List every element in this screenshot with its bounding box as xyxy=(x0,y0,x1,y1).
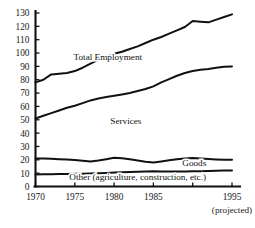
y-tick-label: 120 xyxy=(15,22,29,32)
y-tick-label: 50 xyxy=(20,115,30,125)
y-tick-label: 10 xyxy=(20,169,30,179)
y-tick-label: 30 xyxy=(20,142,30,152)
y-tick-label: 100 xyxy=(15,48,29,58)
y-tick-label: 40 xyxy=(20,129,30,139)
series-label-services: Services xyxy=(110,116,142,126)
y-tick-label: 110 xyxy=(16,35,30,45)
chart-annotations: (projected) xyxy=(212,205,252,215)
y-tick-label: 90 xyxy=(20,62,30,72)
y-tick-label: 20 xyxy=(20,155,30,165)
y-tick-label: 130 xyxy=(15,8,29,18)
y-tick-label: 60 xyxy=(20,102,30,112)
projected-note: (projected) xyxy=(212,205,252,215)
x-tick-label: 1975 xyxy=(65,192,84,202)
chart-svg: 0102030405060708090100110120130 19701975… xyxy=(0,0,255,228)
series-label-goods: Goods xyxy=(182,158,206,168)
x-tick-label: 1985 xyxy=(144,192,163,202)
y-tick-label: 70 xyxy=(20,88,30,98)
x-tick-label: 1995 xyxy=(223,192,242,202)
y-tick-label: 0 xyxy=(25,182,30,192)
x-tick-label: 1980 xyxy=(105,192,124,202)
series-label-other: Other (agriculture, construction, etc.) xyxy=(69,172,206,182)
y-tick-label: 80 xyxy=(20,75,30,85)
employment-line-chart: 0102030405060708090100110120130 19701975… xyxy=(0,0,255,228)
series-label-total-employment: Total Employment xyxy=(74,52,143,62)
x-tick-label: 1970 xyxy=(26,192,45,202)
